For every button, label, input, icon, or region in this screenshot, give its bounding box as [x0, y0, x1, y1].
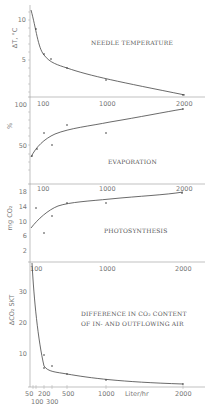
- x-axis-label: Liter/hr: [125, 390, 149, 398]
- y-tick-30: 30: [19, 288, 27, 296]
- x-tick-300: 300: [46, 398, 58, 406]
- y-axis-label: mg CO₂: [6, 205, 14, 230]
- panel-evaporation: 100 1000 2000 100 50 % EVAPORATION: [6, 97, 193, 180]
- x-tick-2000-bottom: 2000: [175, 390, 192, 398]
- fit-curve: [31, 109, 183, 157]
- y-axis-label: ΔT, °C: [11, 27, 19, 48]
- y-axis-label: %: [6, 123, 14, 129]
- x-tick-100: 100: [37, 100, 49, 108]
- y-tick-14: 14: [19, 203, 27, 211]
- panel-photosynthesis: 100 1000 2000 18 14 10 6 2 mg CO₂ PHOTOS…: [6, 180, 205, 262]
- y-axis-label: ΔCO₂ SKT: [8, 295, 16, 326]
- y-tick-50: 50: [19, 142, 27, 150]
- x-tick-50: 50: [25, 390, 33, 398]
- y-tick-10: 10: [19, 350, 27, 358]
- figure-canvas: 10 5 ΔT, °C NEEDLE TEMPERATURE 100 1000 …: [0, 0, 215, 412]
- x-tick-100: 100: [37, 185, 49, 193]
- y-tick-100: 100: [15, 101, 27, 109]
- x-tick-1000-bottom: 1000: [98, 390, 115, 398]
- y-tick-10: 10: [18, 16, 26, 24]
- x-tick-2000: 2000: [175, 265, 192, 273]
- fit-curve: [31, 10, 185, 95]
- panel-title: NEEDLE TEMPERATURE: [91, 39, 173, 46]
- x-tick-200: 200: [38, 390, 50, 398]
- y-tick-20: 20: [19, 319, 27, 327]
- x-tick-500: 500: [62, 390, 74, 398]
- fit-curve: [31, 192, 183, 228]
- panel-title: PHOTOSYNTHESIS: [104, 227, 167, 234]
- y-tick-10: 10: [19, 218, 27, 226]
- x-tick-1000: 1000: [99, 265, 116, 273]
- panel-needle-temperature: 10 5 ΔT, °C NEEDLE TEMPERATURE: [11, 5, 205, 97]
- panel-title-line1: DIFFERENCE IN CO₂ CONTENT: [81, 310, 187, 317]
- panel-title-line2: OF IN- AND OUTFLOWING AIR: [81, 320, 184, 327]
- x-tick-2000: 2000: [176, 185, 193, 193]
- panel-co2-difference: 100 1000 2000 30 20 10 ΔCO₂ SKT DIFFEREN…: [8, 262, 205, 406]
- y-tick-18: 18: [19, 188, 27, 196]
- x-tick-1000: 1000: [99, 100, 116, 108]
- y-tick-2: 2: [23, 247, 27, 255]
- x-tick-1000: 1000: [99, 185, 116, 193]
- y-tick-6: 6: [23, 232, 27, 240]
- x-tick-100-bottom: 100: [31, 398, 43, 406]
- panel-title: EVAPORATION: [108, 158, 157, 165]
- data-points: [31, 108, 184, 157]
- y-tick-5: 5: [22, 56, 26, 64]
- x-tick-2000: 2000: [176, 100, 193, 108]
